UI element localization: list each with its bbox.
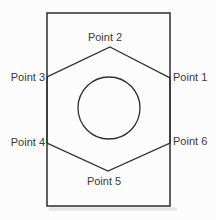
- hexagon-diagram: Point 1 Point 2 Point 3 Point 4 Point 5 …: [0, 0, 216, 220]
- point-4-label: Point 4: [11, 136, 45, 148]
- point-3-label: Point 3: [11, 71, 45, 83]
- point-6-label: Point 6: [173, 135, 207, 147]
- hexagon: [47, 47, 170, 171]
- point-2-label: Point 2: [88, 31, 122, 43]
- inner-circle: [78, 77, 140, 139]
- point-1-label: Point 1: [173, 71, 207, 83]
- point-5-label: Point 5: [87, 175, 121, 187]
- diagram-canvas: Point 1 Point 2 Point 3 Point 4 Point 5 …: [0, 0, 216, 220]
